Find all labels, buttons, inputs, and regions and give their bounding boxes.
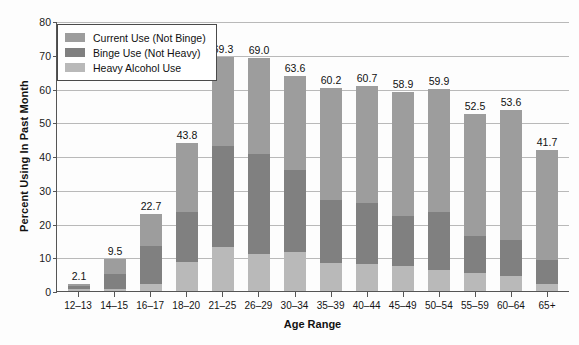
legend-item[interactable]: Binge Use (Not Heavy) xyxy=(65,45,206,60)
x-axis-tick-label: 30–34 xyxy=(276,300,312,311)
x-axis-tick-label: 18–20 xyxy=(168,300,204,311)
y-axis-tick-label: 10 xyxy=(39,252,51,264)
x-axis-tick-label: 60–64 xyxy=(493,300,529,311)
bar-value-label: 52.5 xyxy=(465,100,485,112)
stacked-bar[interactable]: 63.6 xyxy=(284,76,306,291)
bar-slot: 63.6 xyxy=(277,22,313,291)
stacked-bar[interactable]: 9.5 xyxy=(104,259,126,291)
stacked-bar[interactable]: 53.6 xyxy=(500,110,522,291)
legend: Current Use (Not Binge)Binge Use (Not He… xyxy=(57,24,217,81)
x-axis-tick-mark xyxy=(186,292,187,297)
bar-segment xyxy=(464,114,486,237)
x-axis-tick-mark xyxy=(403,292,404,297)
x-axis-tick-mark xyxy=(511,292,512,297)
bar-segment xyxy=(464,273,486,291)
x-axis-tick-label: 45–49 xyxy=(385,300,421,311)
bar-value-label: 43.8 xyxy=(177,129,197,141)
y-axis-tick-label: 70 xyxy=(39,50,51,62)
x-axis-tick-labels: 12–1314–1516–1718–2021–2526–2930–3435–39… xyxy=(56,300,569,311)
bar-segment xyxy=(464,236,486,272)
stacked-bar[interactable]: 69.3 xyxy=(212,57,234,291)
x-axis-tick-mark xyxy=(78,292,79,297)
bar-segment xyxy=(248,58,270,154)
x-axis-tick-label: 55–59 xyxy=(457,300,493,311)
y-axis-tick-label: 60 xyxy=(39,84,51,96)
bar-slot: 59.9 xyxy=(421,22,457,291)
bar-value-label: 69.0 xyxy=(249,44,269,56)
stacked-bar[interactable]: 2.1 xyxy=(68,284,90,291)
bar-segment xyxy=(140,214,162,245)
bar-segment xyxy=(284,252,306,291)
x-axis-tick-mark xyxy=(331,292,332,297)
bar-segment xyxy=(212,146,234,247)
bar-value-label: 22.7 xyxy=(141,200,161,212)
x-axis-tick-mark xyxy=(222,292,223,297)
x-axis-tick-label: 35–39 xyxy=(313,300,349,311)
bar-segment xyxy=(392,92,414,216)
bar-segment xyxy=(248,154,270,254)
legend-item-label: Heavy Alcohol Use xyxy=(93,62,181,74)
bar-segment xyxy=(536,284,558,291)
legend-item[interactable]: Heavy Alcohol Use xyxy=(65,60,206,75)
y-axis-tick-label: 80 xyxy=(39,16,51,28)
bar-segment xyxy=(68,289,90,291)
stacked-bar[interactable]: 22.7 xyxy=(140,214,162,291)
stacked-bar[interactable]: 69.0 xyxy=(248,58,270,291)
x-axis-tick-label: 12–13 xyxy=(60,300,96,311)
stacked-bar[interactable]: 60.2 xyxy=(320,88,342,291)
stacked-bar[interactable]: 41.7 xyxy=(536,150,558,291)
bar-segment xyxy=(284,76,306,169)
x-axis-tick-label: 50–54 xyxy=(421,300,457,311)
bar-segment xyxy=(428,89,450,212)
bar-segment xyxy=(176,143,198,212)
x-axis-tick-label: 40–44 xyxy=(349,300,385,311)
y-axis-tick-label: 30 xyxy=(39,185,51,197)
x-axis-tick-label: 65+ xyxy=(529,300,565,311)
bar-segment xyxy=(248,254,270,291)
bar-value-label: 41.7 xyxy=(537,136,557,148)
bar-segment xyxy=(320,200,342,263)
bar-segment xyxy=(140,284,162,291)
x-axis-tick-mark xyxy=(439,292,440,297)
legend-swatch-icon xyxy=(65,63,85,72)
bar-slot: 41.7 xyxy=(529,22,565,291)
y-axis-title: Percent Using In Past Month xyxy=(18,46,30,266)
legend-swatch-icon xyxy=(65,48,85,57)
x-axis-title: Age Range xyxy=(56,318,569,330)
legend-item-label: Current Use (Not Binge) xyxy=(93,32,206,44)
legend-item-label: Binge Use (Not Heavy) xyxy=(93,47,200,59)
bar-value-label: 60.7 xyxy=(357,72,377,84)
bar-slot: 53.6 xyxy=(493,22,529,291)
stacked-bar[interactable]: 52.5 xyxy=(464,114,486,291)
x-axis-tick-mark xyxy=(114,292,115,297)
x-axis-tick-label: 26–29 xyxy=(240,300,276,311)
x-axis-tick-mark xyxy=(258,292,259,297)
bar-value-label: 53.6 xyxy=(501,96,521,108)
y-axis-tick-label: 0 xyxy=(45,286,51,298)
bar-segment xyxy=(500,276,522,291)
bar-segment xyxy=(176,212,198,263)
legend-item[interactable]: Current Use (Not Binge) xyxy=(65,30,206,45)
stacked-bar[interactable]: 59.9 xyxy=(428,89,450,291)
bar-segment xyxy=(392,266,414,291)
stacked-bar[interactable]: 60.7 xyxy=(356,86,378,291)
x-axis-tick-mark xyxy=(547,292,548,297)
bar-segment xyxy=(104,289,126,291)
y-axis-tick-label: 20 xyxy=(39,219,51,231)
x-axis-tick-label: 14–15 xyxy=(96,300,132,311)
bar-segment xyxy=(536,150,558,260)
legend-swatch-icon xyxy=(65,33,85,42)
y-axis-tick-label: 40 xyxy=(39,151,51,163)
bar-value-label: 2.1 xyxy=(72,270,87,282)
bar-value-label: 58.9 xyxy=(393,78,413,90)
x-axis-tick-label: 16–17 xyxy=(132,300,168,311)
bar-segment xyxy=(428,270,450,291)
bar-segment xyxy=(320,88,342,200)
bar-segment xyxy=(284,170,306,253)
bar-segment xyxy=(104,274,126,289)
stacked-bar[interactable]: 58.9 xyxy=(392,92,414,291)
bar-segment xyxy=(500,110,522,240)
bar-segment xyxy=(356,203,378,264)
bar-segment xyxy=(356,264,378,291)
stacked-bar[interactable]: 43.8 xyxy=(176,143,198,291)
